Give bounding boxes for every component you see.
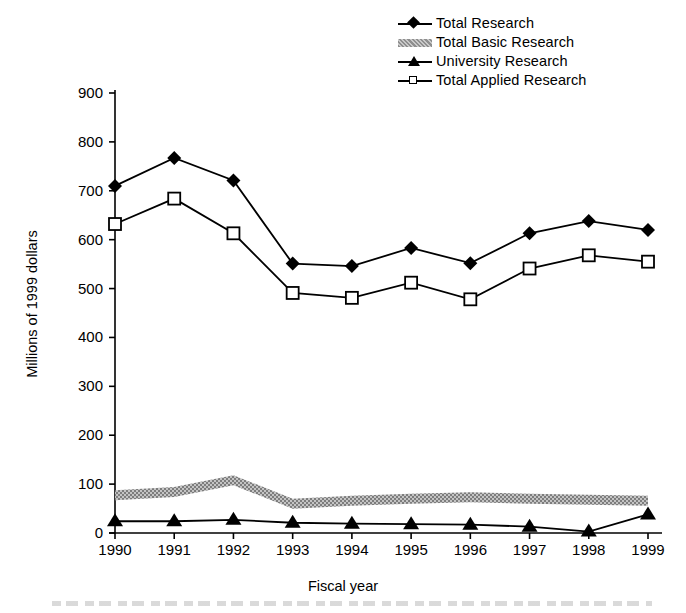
diamond-data-point: [286, 257, 300, 271]
chart-figure: Total Research Total Basic Research Univ…: [0, 0, 686, 613]
triangle-data-point: [285, 515, 301, 528]
square-data-point: [168, 193, 180, 205]
diamond-data-point: [404, 241, 418, 255]
diamond-data-point: [523, 226, 537, 240]
basic-research-band: [115, 475, 648, 508]
triangle-data-point: [640, 506, 656, 519]
series-markers: [107, 151, 656, 537]
square-data-point: [346, 292, 358, 304]
triangle-data-point: [403, 516, 419, 529]
square-data-point: [287, 287, 299, 299]
square-data-point: [227, 227, 239, 239]
square-data-point: [464, 293, 476, 305]
triangle-data-point: [462, 517, 478, 530]
triangle-data-point: [522, 519, 538, 532]
square-data-point: [524, 263, 536, 275]
triangle-data-point: [166, 513, 182, 526]
diamond-data-point: [463, 256, 477, 270]
series-line: [115, 158, 648, 266]
diamond-data-point: [226, 174, 240, 188]
diamond-data-point: [582, 214, 596, 228]
series-line: [115, 199, 648, 300]
plot-area: [0, 0, 686, 613]
series-line: [115, 514, 648, 531]
diamond-data-point: [167, 151, 181, 165]
diamond-data-point: [345, 259, 359, 273]
series-lines: [115, 158, 648, 532]
square-data-point: [642, 256, 654, 268]
series-total-basic-research: [115, 475, 648, 508]
caption-partial: [52, 601, 652, 606]
square-data-point: [583, 249, 595, 261]
triangle-data-point: [344, 516, 360, 529]
axis-lines: [109, 90, 662, 539]
square-data-point: [405, 277, 417, 289]
triangle-data-point: [107, 513, 123, 526]
square-data-point: [109, 218, 121, 230]
diamond-data-point: [641, 223, 655, 237]
triangle-data-point: [225, 512, 241, 525]
